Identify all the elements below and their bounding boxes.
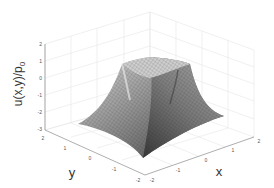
svg-text:-3: -3 — [38, 126, 43, 132]
svg-text:-2: -2 — [38, 109, 43, 115]
svg-text:1: 1 — [232, 147, 235, 153]
svg-text:-1: -1 — [112, 166, 117, 172]
svg-text:-1: -1 — [38, 92, 43, 98]
svg-text:0: 0 — [205, 157, 208, 163]
z-axis-label: u(x,y)/p0 — [11, 61, 27, 106]
svg-text:-2: -2 — [150, 177, 155, 183]
svg-text:0: 0 — [89, 155, 92, 161]
z-axis-ticks: 2 1 0 -1 -2 -3 — [38, 41, 43, 132]
svg-text:2: 2 — [39, 41, 42, 47]
x-axis-label: x — [216, 164, 223, 179]
svg-text:0: 0 — [39, 75, 42, 81]
svg-text:1: 1 — [64, 145, 67, 151]
svg-text:2: 2 — [258, 138, 261, 144]
svg-text:-2: -2 — [136, 177, 141, 183]
surface-plot: 2 1 0 -1 -2 -3 2 1 0 -1 -2 -2 -1 0 1 2 y… — [0, 0, 274, 188]
x-axis-ticks: -2 -1 0 1 2 — [150, 138, 261, 183]
svg-text:-1: -1 — [176, 167, 181, 173]
svg-text:2: 2 — [42, 135, 45, 141]
svg-text:1: 1 — [39, 58, 42, 64]
svg-text:u(x,y)/p0: u(x,y)/p0 — [11, 61, 27, 106]
y-axis-label: y — [69, 165, 76, 180]
